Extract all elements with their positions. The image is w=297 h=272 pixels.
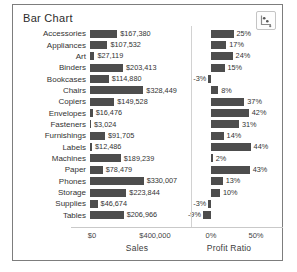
profit-cell: -3% [192, 198, 282, 209]
sales-cell: $3,024 [90, 119, 191, 130]
sales-cell: $114,880 [90, 73, 191, 84]
category-label: Storage [13, 188, 90, 197]
profit-bar[interactable] [211, 86, 218, 94]
profit-bar[interactable] [203, 211, 211, 219]
profit-bar[interactable] [211, 109, 249, 117]
sales-bar[interactable] [90, 64, 123, 72]
sales-bar[interactable] [90, 154, 121, 162]
chart-row: Paper $78,479 43% [13, 164, 282, 175]
sales-value-label: $149,528 [117, 98, 147, 106]
sales-cell: $206,966 [90, 210, 191, 221]
sales-value-label: $330,007 [147, 177, 177, 185]
profit-bar[interactable] [211, 120, 239, 128]
sales-bar[interactable] [90, 30, 117, 38]
sales-cell: $78,479 [90, 164, 191, 175]
profit-value-label: -3% [193, 75, 206, 83]
category-label: Phones [13, 177, 90, 186]
chart-frame: Bar Chart Accessories $167,380 25% Appli… [12, 4, 283, 261]
profit-bar[interactable] [211, 52, 233, 60]
sales-value-label: $107,532 [110, 41, 140, 49]
sales-bar[interactable] [90, 189, 126, 197]
sales-cell: $91,705 [90, 130, 191, 141]
profit-cell: 42% [192, 107, 282, 118]
chart-row: Tables $206,966 -9% [13, 210, 282, 221]
profit-value-label: 15% [228, 64, 243, 72]
sales-bar[interactable] [90, 166, 103, 174]
sales-cell: $223,844 [90, 187, 191, 198]
sales-bar[interactable] [90, 109, 93, 117]
profit-cell: 8% [192, 85, 282, 96]
sales-axis-title: Sales [126, 243, 148, 253]
profit-bar[interactable] [211, 41, 226, 49]
profit-bar[interactable] [208, 200, 211, 208]
profit-value-label: 17% [229, 41, 244, 49]
profit-bar[interactable] [211, 143, 251, 151]
sales-cell: $328,449 [90, 85, 191, 96]
sales-bar[interactable] [90, 143, 92, 151]
profit-bar[interactable] [211, 154, 213, 162]
profit-value-label: 42% [252, 109, 267, 117]
sales-cell: $149,528 [90, 96, 191, 107]
profit-bar[interactable] [208, 75, 211, 83]
profit-cell: 37% [192, 96, 282, 107]
chart-row: Storage $223,844 10% [13, 187, 282, 198]
profit-cell: -3% [192, 73, 282, 84]
category-label: Supplies [13, 199, 90, 208]
category-label: Furnishings [13, 131, 90, 140]
category-label: Copiers [13, 97, 90, 106]
sales-bar[interactable] [90, 41, 107, 49]
chart-row: Copiers $149,528 37% [13, 96, 282, 107]
sales-value-label: $203,413 [126, 64, 156, 72]
category-label: Tables [13, 211, 90, 220]
profit-value-label: -9% [188, 211, 201, 219]
profit-bar[interactable] [211, 177, 223, 185]
sales-cell: $16,476 [90, 107, 191, 118]
axis-line [71, 227, 283, 228]
profit-value-label: 44% [254, 143, 269, 151]
sales-bar[interactable] [90, 86, 143, 94]
sales-cell: $27,119 [90, 51, 191, 62]
category-label: Machines [13, 154, 90, 163]
category-label: Paper [13, 165, 90, 174]
sales-bar[interactable] [90, 132, 105, 140]
profit-value-label: -3% [193, 200, 206, 208]
profit-bar[interactable] [211, 98, 244, 106]
profit-bar[interactable] [211, 64, 225, 72]
chart-row: Accessories $167,380 25% [13, 28, 282, 39]
sales-bar[interactable] [90, 120, 91, 128]
sales-value-label: $16,476 [96, 109, 122, 117]
profit-cell: 14% [192, 130, 282, 141]
category-label: Appliances [13, 41, 90, 50]
sales-bar[interactable] [90, 200, 98, 208]
profit-cell: 43% [192, 164, 282, 175]
sales-bar[interactable] [90, 52, 94, 60]
profit-cell: 25% [192, 28, 282, 39]
sales-value-label: $27,119 [97, 52, 123, 60]
sales-cell: $12,486 [90, 141, 191, 152]
profit-value-label: 13% [226, 177, 241, 185]
sales-bar[interactable] [90, 177, 144, 185]
profit-cell: 2% [192, 153, 282, 164]
chart-row: Binders $203,413 15% [13, 62, 282, 73]
category-label: Chairs [13, 86, 90, 95]
profit-bar[interactable] [211, 166, 250, 174]
profit-value-label: 24% [236, 52, 251, 60]
sales-bar[interactable] [90, 75, 109, 83]
sales-cell: $107,532 [90, 39, 191, 50]
sales-cell: $189,239 [90, 153, 191, 164]
profit-bar[interactable] [211, 132, 224, 140]
sales-bar[interactable] [90, 211, 124, 219]
sales-value-label: $167,380 [120, 30, 150, 38]
sales-value-label: $12,486 [95, 143, 121, 151]
profit-axis-tick-max: 50% [248, 231, 263, 240]
sales-value-label: $78,479 [106, 166, 132, 174]
chart-row: Machines $189,239 2% [13, 153, 282, 164]
category-label: Accessories [13, 29, 90, 38]
profit-bar[interactable] [211, 30, 234, 38]
chart-row: Furnishings $91,705 14% [13, 130, 282, 141]
sales-value-label: $189,239 [124, 155, 154, 163]
sales-value-label: $3,024 [94, 121, 116, 129]
sales-bar[interactable] [90, 98, 114, 106]
profit-value-label: 37% [247, 98, 262, 106]
profit-bar[interactable] [211, 189, 220, 197]
